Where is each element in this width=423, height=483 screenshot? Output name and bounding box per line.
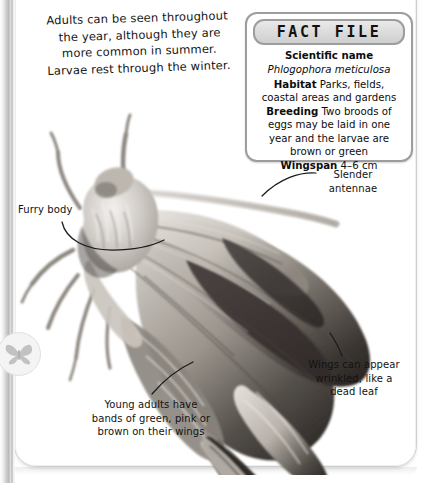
callout-young-line-1: Young adults have [62, 398, 240, 412]
callout-wrinkled-line-2: wrinkled, like a [300, 372, 408, 386]
fact-row-habitat: Habitat Parks, fields, coastal areas and… [258, 78, 400, 105]
callout-wrinkled-wings: Wings can appear wrinkled, like a dead l… [300, 358, 408, 399]
callout-slender-antennae-line-1: Slender [318, 168, 388, 182]
callout-young-adults: Young adults have bands of green, pink o… [62, 398, 240, 439]
callout-wrinkled-line-3: dead leaf [300, 385, 408, 399]
book-page: Adults can be seen throughout the year, … [0, 0, 423, 483]
callout-furry-body-text: Furry body [18, 203, 112, 217]
fact-label-scientific-name: Scientific name [285, 50, 373, 61]
callout-furry-body: Furry body [18, 203, 112, 217]
fact-value-scientific-name: Phlogophora meticulosa [268, 64, 391, 75]
callout-slender-antennae-line-2: antennae [318, 182, 388, 196]
callout-wrinkled-line-1: Wings can appear [300, 358, 408, 372]
fact-label-breeding: Breeding [266, 106, 318, 117]
callout-young-line-2: bands of green, pink or [62, 412, 240, 426]
fact-row-breeding: Breeding Two broods of eggs may be laid … [258, 105, 400, 158]
callout-slender-antennae: Slender antennae [318, 168, 388, 195]
fact-row-scientific-name: Scientific name [258, 49, 400, 62]
intro-text: Adults can be seen throughout the year, … [33, 6, 243, 80]
moth-silhouette-icon [4, 342, 34, 366]
fact-file-title: FACT FILE [277, 23, 382, 41]
fact-row-scientific-value: Phlogophora meticulosa [258, 63, 400, 76]
fact-file-body: Scientific name Phlogophora meticulosa H… [253, 48, 405, 155]
callout-young-line-3: brown on their wings [62, 425, 240, 439]
book-gutter-edge [11, 0, 13, 483]
fact-label-habitat: Habitat [274, 79, 317, 90]
fact-file-header: FACT FILE [253, 19, 405, 45]
fact-file-box: FACT FILE Scientific name Phlogophora me… [245, 12, 413, 162]
